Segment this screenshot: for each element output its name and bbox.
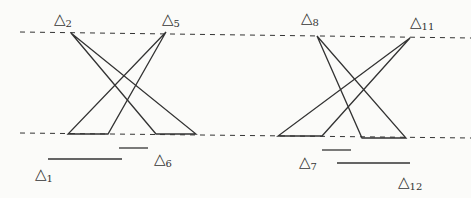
label-delta-8: △8: [301, 11, 319, 28]
triangle: [278, 38, 410, 136]
label-delta-6: △6: [154, 152, 172, 169]
label-delta-7: △7: [299, 155, 317, 172]
triangle: [71, 33, 196, 134]
label-delta-11: △11: [410, 15, 434, 32]
label-delta-12: △12: [398, 175, 422, 192]
label-delta-5: △5: [162, 12, 180, 29]
diagram-canvas: △1 △2 △5 △6 △7 △8 △11 △12: [0, 0, 471, 198]
label-delta-1: △1: [35, 167, 53, 184]
dashed-line: [20, 32, 471, 38]
label-delta-2: △2: [54, 12, 72, 29]
diagram-figure: [0, 0, 471, 198]
